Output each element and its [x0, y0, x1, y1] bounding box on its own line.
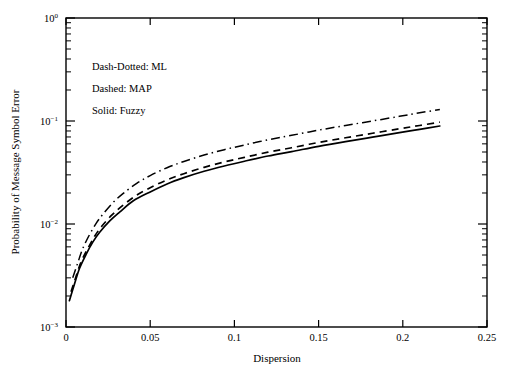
legend-annotation-1: Dashed: MAP	[92, 83, 152, 94]
x-tick-label: 0.25	[478, 332, 496, 343]
x-tick-label: 0.15	[309, 332, 327, 343]
x-tick-label: 0	[63, 332, 68, 343]
y-axis-label: Probability of Message Symbol Error	[9, 89, 21, 254]
x-tick-label: 0.1	[228, 332, 241, 343]
x-axis-label: Dispersion	[253, 352, 301, 364]
legend-annotation-2: Solid: Fuzzy	[92, 105, 146, 116]
chart-background	[0, 0, 513, 377]
probability-vs-dispersion-chart: 10010−110−210−3 00.050.10.150.20.25 Dash…	[0, 0, 513, 377]
x-tick-label: 0.2	[396, 332, 409, 343]
chart-figure: 10010−110−210−3 00.050.10.150.20.25 Dash…	[0, 0, 513, 377]
legend-annotation-0: Dash-Dotted: ML	[92, 61, 167, 72]
x-tick-label: 0.05	[141, 332, 159, 343]
